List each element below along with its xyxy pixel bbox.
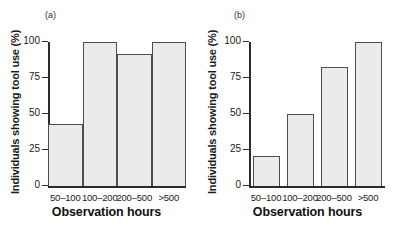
- bar-b-0: [253, 156, 280, 186]
- bar-a-1: [83, 42, 118, 186]
- y-tick-label-b-0: 0: [211, 179, 241, 190]
- plot-area-a: 0 25 50 75 100: [48, 42, 186, 186]
- bar-a-2: [117, 54, 152, 187]
- panel-label-b: (b): [234, 10, 245, 20]
- bar-series-a: [48, 42, 186, 186]
- y-tick-label-a-50: 50: [10, 107, 40, 118]
- y-tick-label-a-25: 25: [10, 143, 40, 154]
- x-tick-label-a-3: >500: [144, 192, 193, 203]
- x-axis-label-b: Observation hours: [225, 205, 390, 219]
- panel-label-a: (a): [45, 10, 56, 20]
- y-tick-label-a-0: 0: [10, 179, 40, 190]
- y-tick-label-b-100: 100: [211, 35, 241, 46]
- y-tick-label-a-75: 75: [10, 71, 40, 82]
- plot-area-b: 0 25 50 75 100: [249, 42, 385, 186]
- x-axis-label-a: Observation hours: [24, 205, 189, 219]
- y-tick-label-b-50: 50: [211, 107, 241, 118]
- x-axis-line-b: [249, 186, 385, 188]
- bar-b-2: [321, 67, 348, 187]
- y-tick-label-a-100: 100: [10, 35, 40, 46]
- chart-panel-b: (b) Individuals showing tool use (%) 0 2…: [197, 0, 393, 232]
- y-tick-label-b-25: 25: [211, 143, 241, 154]
- bar-b-1: [287, 114, 314, 186]
- y-tick-label-b-75: 75: [211, 71, 241, 82]
- x-axis-line-a: [48, 186, 186, 188]
- bar-a-3: [152, 42, 187, 186]
- chart-panel-a: (a) Individuals showing tool use (%) 0 2…: [0, 0, 196, 232]
- bar-b-3: [355, 42, 382, 186]
- x-tick-label-b-3: >500: [344, 192, 393, 203]
- figure-root: (a) Individuals showing tool use (%) 0 2…: [0, 0, 393, 232]
- bar-series-b: [249, 42, 385, 186]
- bar-a-0: [48, 124, 83, 186]
